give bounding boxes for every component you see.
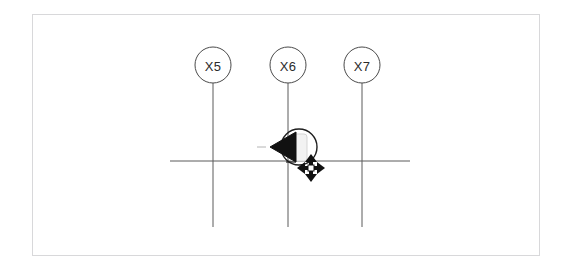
- move-cursor-arrow-right-icon: [317, 162, 325, 174]
- grid-bubble-x6[interactable]: X6: [270, 47, 306, 83]
- grid-bubble-label-x5: X5: [205, 59, 221, 74]
- grid-bubble-label-x7: X7: [354, 59, 370, 74]
- drawing-canvas: X5 X6 X7: [0, 0, 566, 271]
- move-cursor-center-icon: [308, 165, 314, 171]
- move-cursor-arrow-down-icon: [305, 174, 317, 182]
- cad-drawing-area[interactable]: X5 X6 X7: [0, 0, 566, 271]
- grid-bubble-x7[interactable]: X7: [344, 47, 380, 83]
- callout-arrow-left-icon: [270, 132, 296, 162]
- move-cursor-arrow-left-icon: [297, 162, 305, 174]
- grid-bubble-x5[interactable]: X5: [195, 47, 231, 83]
- grid-bubble-label-x6: X6: [280, 59, 296, 74]
